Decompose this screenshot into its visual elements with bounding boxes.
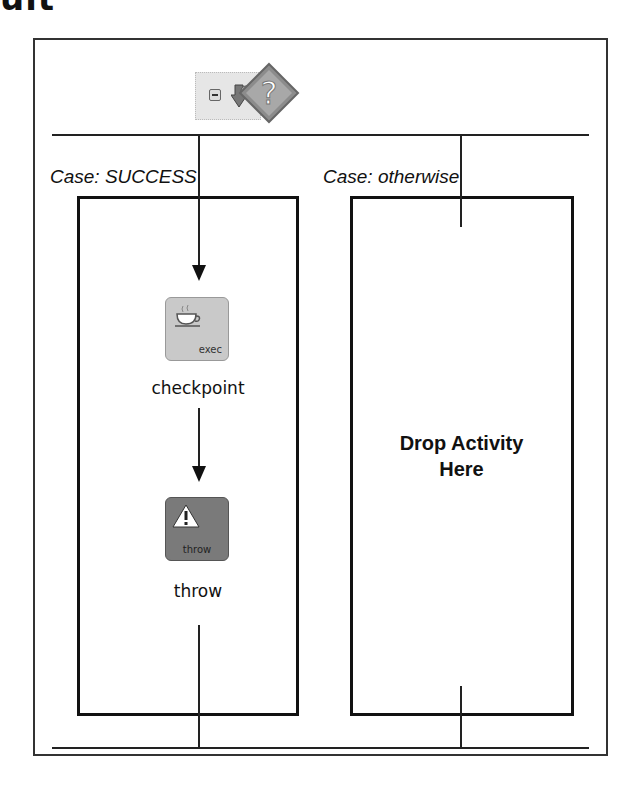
- collapse-icon[interactable]: [209, 89, 221, 101]
- svg-text:?: ?: [261, 74, 278, 112]
- flow-line: [460, 135, 462, 227]
- activity-checkpoint[interactable]: exec: [165, 297, 229, 361]
- branch-top-line: [52, 134, 589, 136]
- flow-line: [198, 135, 200, 265]
- arrow-down-icon: [192, 466, 206, 482]
- activity-label-checkpoint: checkpoint: [118, 378, 278, 398]
- drop-placeholder-line-1: Drop Activity: [350, 430, 573, 456]
- flow-line: [198, 625, 200, 748]
- activity-icon-caption: exec: [166, 344, 228, 355]
- flow-line: [198, 408, 200, 468]
- drop-activity-placeholder[interactable]: Drop Activity Here: [350, 430, 573, 482]
- case-label-success: Case: SUCCESS: [50, 166, 197, 188]
- case-box-success[interactable]: [77, 196, 299, 716]
- activity-label-throw: throw: [118, 581, 278, 601]
- case-label-otherwise: Case: otherwise: [323, 166, 459, 188]
- activity-icon-caption: throw: [166, 544, 228, 555]
- switch-question-diamond-icon[interactable]: ?: [238, 62, 300, 124]
- heading-fragment: ult: [0, 0, 55, 18]
- drop-placeholder-line-2: Here: [350, 456, 573, 482]
- branch-bottom-line: [52, 747, 589, 749]
- coffee-cup-icon: [174, 304, 204, 334]
- flow-line: [460, 686, 462, 748]
- warning-triangle-icon: [172, 504, 200, 532]
- arrow-down-icon: [192, 265, 206, 281]
- activity-throw[interactable]: throw: [165, 497, 229, 561]
